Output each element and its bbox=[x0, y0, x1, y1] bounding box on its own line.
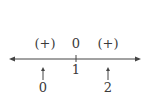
sign-label-left: (+) bbox=[34, 37, 55, 50]
up-arrow-icon bbox=[41, 67, 45, 71]
left-arrowhead-icon bbox=[9, 57, 15, 62]
tick-label: 1 bbox=[72, 63, 80, 76]
up-arrow-icon bbox=[106, 67, 110, 71]
pointer-label-right: 2 bbox=[104, 81, 112, 94]
sign-label-right: (+) bbox=[97, 37, 118, 50]
pointer-label-left: 0 bbox=[39, 81, 47, 94]
right-arrowhead-icon bbox=[135, 57, 141, 62]
sign-label-middle: 0 bbox=[72, 37, 80, 50]
